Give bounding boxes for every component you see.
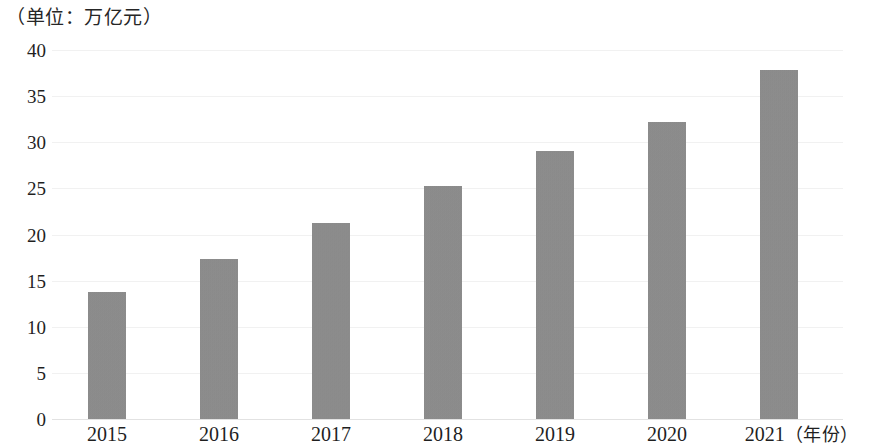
x-axis-tick-label: 2021（年份） [745,421,859,448]
y-axis-tick-label: 15 [2,271,46,290]
x-axis-tick-label: 2016 [199,421,239,447]
bar [760,70,798,419]
y-axis-tick-label: 40 [2,41,46,60]
y-axis-tick-label: 10 [2,317,46,336]
x-axis-tick-label: 2019 [535,421,575,447]
bar-chart: （单位：万亿元） 0510152025303540 20152016201720… [0,0,878,448]
x-axis-name: （年份） [785,425,859,445]
y-axis-tick-label: 0 [2,410,46,429]
x-axis-tick-label: 2017 [311,421,351,447]
y-axis-tick-labels: 0510152025303540 [0,50,46,419]
y-axis-tick-label: 25 [2,179,46,198]
gridline [52,96,843,97]
y-axis-tick-label: 20 [2,225,46,244]
bar [88,292,126,419]
bar [424,186,462,419]
gridline [52,142,843,143]
y-axis-tick-label: 35 [2,87,46,106]
x-axis-tick-label: 2015 [87,421,127,447]
chart-unit-label: （单位：万亿元） [6,2,162,29]
x-axis-line [52,419,843,420]
y-axis-tick-label: 30 [2,133,46,152]
bar [312,223,350,419]
x-axis-tick-labels: 2015201620172018201920202021（年份） [52,421,878,448]
x-axis-tick-label: 2020 [647,421,687,447]
y-axis-tick-label: 5 [2,363,46,382]
gridline [52,50,843,51]
x-axis-tick-label: 2018 [423,421,463,447]
plot-area [52,50,843,419]
bar [648,122,686,419]
bar [536,151,574,419]
bar [200,259,238,419]
